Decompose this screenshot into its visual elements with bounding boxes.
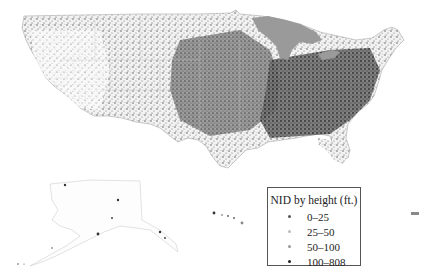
legend-label: 25–50 bbox=[307, 226, 335, 238]
map-legend: NID by height (ft.) 0–25 25–50 50–100 10… bbox=[267, 187, 361, 266]
legend-dot-icon bbox=[288, 245, 291, 248]
puerto-rico bbox=[411, 212, 419, 215]
legend-title: NID by height (ft.) bbox=[268, 194, 360, 206]
contiguous-us bbox=[22, 10, 404, 168]
western-region bbox=[30, 30, 110, 110]
legend-label: 100–808 bbox=[307, 256, 346, 268]
legend-label: 0–25 bbox=[307, 211, 329, 223]
dam-map bbox=[0, 0, 435, 279]
legend-item-25-50: 25–50 bbox=[268, 224, 360, 239]
legend-item-100-808: 100–808 bbox=[268, 254, 360, 269]
legend-dot-icon bbox=[288, 230, 291, 233]
hawaii bbox=[213, 212, 244, 225]
legend-item-0-25: 0–25 bbox=[268, 209, 360, 224]
legend-item-50-100: 50–100 bbox=[268, 239, 360, 254]
eastern-region bbox=[260, 48, 380, 138]
legend-dot-icon bbox=[288, 260, 291, 263]
alaska bbox=[17, 180, 178, 266]
legend-dot-icon bbox=[288, 215, 291, 218]
legend-label: 50–100 bbox=[307, 241, 340, 253]
